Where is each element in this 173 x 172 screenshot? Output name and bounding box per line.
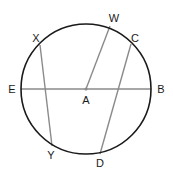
segment-aw — [86, 26, 110, 89]
circle-diagram: ABEWCXYD — [0, 0, 173, 172]
segment-cd — [100, 44, 131, 154]
label-point-w: W — [109, 12, 120, 24]
label-point-d: D — [96, 157, 104, 169]
label-point-b: B — [157, 83, 164, 95]
label-point-y: Y — [47, 149, 55, 161]
label-point-c: C — [131, 32, 139, 44]
segment-xy — [40, 45, 52, 146]
label-point-e: E — [8, 83, 15, 95]
label-point-x: X — [32, 32, 40, 44]
center-point-a — [84, 87, 87, 90]
label-point-a: A — [82, 94, 90, 106]
